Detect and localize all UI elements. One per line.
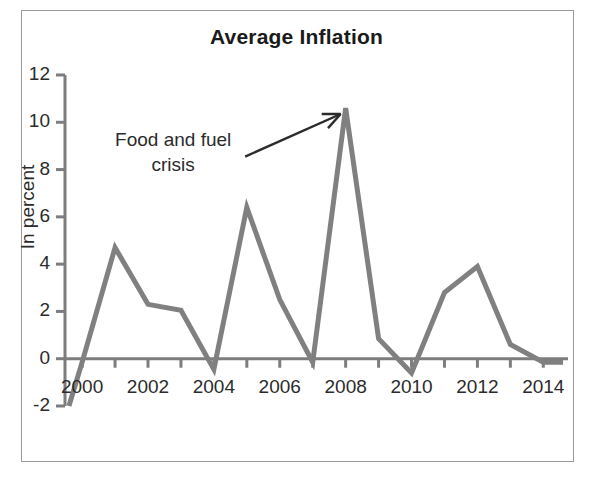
y-axis-tick-label: 2 <box>14 299 50 321</box>
x-axis-tick-label: 2008 <box>309 376 383 398</box>
y-axis-tick-label: 6 <box>14 205 50 227</box>
annotation-arrow-shaft <box>245 114 341 157</box>
x-axis-tick-label: 2002 <box>111 376 185 398</box>
x-axis-tick-label: 2010 <box>375 376 449 398</box>
y-axis-tick-label: 12 <box>14 63 50 85</box>
annotation-arrow-group <box>245 114 341 157</box>
y-axis-tick-label: 8 <box>14 158 50 180</box>
x-axis-tick-label: 2012 <box>440 376 514 398</box>
x-axis-tick-label: 2004 <box>177 376 251 398</box>
y-axis-tick-label: 4 <box>14 252 50 274</box>
x-axis-tick-label: 2014 <box>506 376 580 398</box>
annotation-text-line-2: crisis <box>99 154 247 176</box>
x-axis-tick-label: 2006 <box>243 376 317 398</box>
annotation-text-line-1: Food and fuel <box>99 129 247 151</box>
chart-figure: Average Inflation In percent 121086420-2… <box>0 0 593 483</box>
plot-area <box>0 0 593 483</box>
y-axis-tick-label: 0 <box>14 347 50 369</box>
x-axis-tick-label: 2000 <box>45 376 119 398</box>
y-axis-tick-label: 10 <box>14 110 50 132</box>
